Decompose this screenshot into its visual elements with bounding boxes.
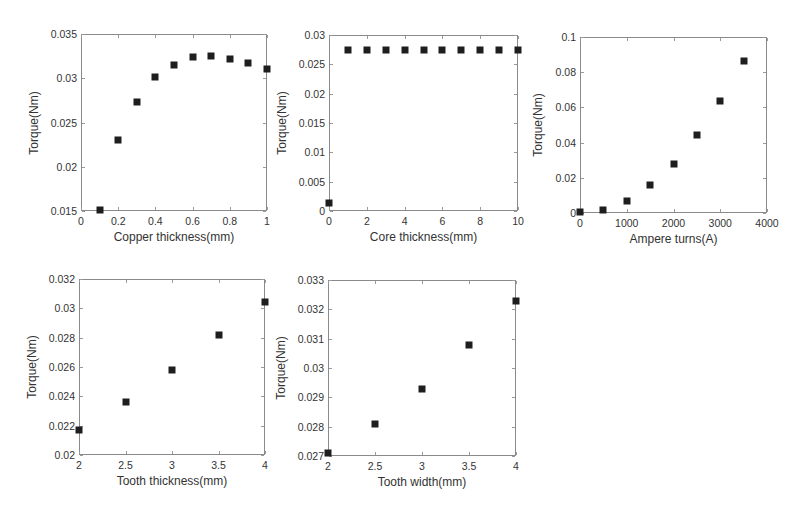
y-tick-label: 0.033 bbox=[298, 274, 324, 286]
x-tick-label: 0 bbox=[78, 215, 84, 227]
x-tick bbox=[230, 207, 231, 210]
x-tick-top bbox=[516, 281, 517, 284]
y-tick-label: 0.031 bbox=[298, 333, 324, 345]
y-tick bbox=[330, 35, 333, 36]
x-tick bbox=[720, 209, 721, 212]
y-tick-right bbox=[512, 309, 515, 310]
x-tick-top bbox=[126, 280, 127, 283]
y-tick-right bbox=[261, 308, 264, 309]
y-tick-right bbox=[261, 338, 264, 339]
x-tick-top bbox=[79, 280, 80, 283]
x-tick bbox=[375, 452, 376, 455]
y-tick-label: 0.06 bbox=[556, 101, 576, 113]
x-tick-top bbox=[720, 38, 721, 41]
y-tick-label: 0 bbox=[570, 207, 576, 219]
y-tick bbox=[581, 107, 584, 108]
y-tick bbox=[82, 123, 85, 124]
x-tick-top bbox=[422, 281, 423, 284]
y-tick bbox=[329, 427, 332, 428]
x-tick-label: 3 bbox=[169, 459, 175, 471]
y-tick-label: 0.022 bbox=[49, 420, 75, 432]
x-tick-top bbox=[767, 38, 768, 41]
data-point-marker bbox=[515, 47, 522, 54]
y-tick bbox=[330, 182, 333, 183]
x-tick-top bbox=[219, 280, 220, 283]
y-tick-right bbox=[263, 167, 266, 168]
data-point-marker bbox=[226, 55, 233, 62]
y-tick-label: 0.02 bbox=[556, 172, 576, 184]
data-point-marker bbox=[245, 60, 252, 67]
y-tick-right bbox=[261, 279, 264, 280]
x-tick-top bbox=[375, 281, 376, 284]
y-tick bbox=[80, 367, 83, 368]
data-point-marker bbox=[96, 207, 103, 214]
x-tick bbox=[267, 207, 268, 210]
y-axis-title: Torque(Nm) bbox=[27, 91, 41, 154]
data-point-marker bbox=[647, 182, 654, 189]
y-tick-label: 0.03 bbox=[55, 302, 75, 314]
x-tick bbox=[81, 207, 82, 210]
y-tick-right bbox=[261, 455, 264, 456]
x-tick bbox=[118, 207, 119, 210]
y-tick bbox=[330, 64, 333, 65]
x-tick-top bbox=[230, 35, 231, 38]
y-tick bbox=[581, 143, 584, 144]
x-tick bbox=[79, 451, 80, 454]
data-point-marker bbox=[577, 209, 584, 216]
x-tick bbox=[126, 451, 127, 454]
y-tick-right bbox=[261, 396, 264, 397]
y-tick-label: 0.03 bbox=[305, 29, 325, 41]
y-tick-label: 0.015 bbox=[299, 117, 325, 129]
y-tick bbox=[329, 368, 332, 369]
y-tick-right bbox=[514, 152, 517, 153]
y-tick-label: 0.02 bbox=[57, 161, 77, 173]
y-tick-label: 0.029 bbox=[298, 391, 324, 403]
y-tick-label: 0.02 bbox=[305, 88, 325, 100]
x-tick-label: 4 bbox=[402, 215, 408, 227]
y-tick bbox=[82, 167, 85, 168]
data-point-marker bbox=[623, 197, 630, 204]
x-tick-label: 6 bbox=[439, 215, 445, 227]
x-tick-top bbox=[118, 35, 119, 38]
x-tick-top bbox=[81, 35, 82, 38]
y-tick-right bbox=[263, 123, 266, 124]
y-tick-label: 0.026 bbox=[49, 361, 75, 373]
data-point-marker bbox=[122, 399, 129, 406]
y-tick bbox=[330, 94, 333, 95]
data-point-marker bbox=[344, 47, 351, 54]
y-tick bbox=[82, 78, 85, 79]
y-tick-right bbox=[763, 213, 766, 214]
y-tick bbox=[330, 211, 333, 212]
x-tick bbox=[518, 207, 519, 210]
data-point-marker bbox=[208, 53, 215, 60]
y-tick bbox=[329, 309, 332, 310]
y-tick-label: 0.025 bbox=[299, 58, 325, 70]
x-tick bbox=[422, 452, 423, 455]
data-point-marker bbox=[382, 47, 389, 54]
x-tick-label: 4 bbox=[513, 460, 519, 472]
y-tick-label: 0.01 bbox=[305, 146, 325, 158]
data-point-marker bbox=[133, 99, 140, 106]
y-tick-label: 0.015 bbox=[51, 205, 77, 217]
x-tick-label: 4 bbox=[262, 459, 268, 471]
y-tick-label: 0.08 bbox=[556, 66, 576, 78]
x-tick-label: 0.4 bbox=[148, 215, 163, 227]
y-axis-title: Torque(Nm) bbox=[274, 336, 288, 399]
x-tick-top bbox=[367, 36, 368, 39]
y-tick-right bbox=[763, 178, 766, 179]
x-tick-label: 0 bbox=[326, 215, 332, 227]
x-tick bbox=[265, 451, 266, 454]
y-tick bbox=[581, 72, 584, 73]
y-tick-right bbox=[512, 397, 515, 398]
y-tick-label: 0 bbox=[319, 205, 325, 217]
x-tick-label: 2 bbox=[325, 460, 331, 472]
x-tick-label: 3 bbox=[419, 460, 425, 472]
x-tick-top bbox=[442, 36, 443, 39]
x-tick bbox=[674, 209, 675, 212]
data-point-marker bbox=[152, 74, 159, 81]
plot-frame bbox=[580, 37, 767, 213]
x-tick bbox=[442, 207, 443, 210]
y-tick-right bbox=[512, 427, 515, 428]
data-point-marker bbox=[496, 47, 503, 54]
x-tick bbox=[367, 207, 368, 210]
